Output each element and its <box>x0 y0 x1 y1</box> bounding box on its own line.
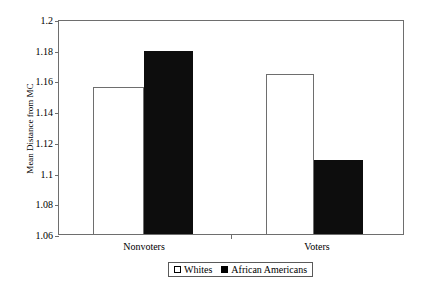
y-tick-mark <box>55 52 59 53</box>
y-tick-mark <box>55 144 59 145</box>
legend: Whites African Americans <box>168 262 313 277</box>
y-tick-label: 1.14 <box>19 108 53 118</box>
bar-voters-african-americans[interactable] <box>314 160 363 234</box>
x-axis-divider-tick <box>231 234 232 239</box>
x-axis-label-voters: Voters <box>230 241 404 253</box>
y-tick-mark <box>55 82 59 83</box>
y-tick-label: 1.08 <box>19 200 53 210</box>
y-tick-label: 1.12 <box>19 139 53 149</box>
y-tick-mark <box>55 21 59 22</box>
legend-swatch-white-square <box>174 266 181 273</box>
y-tick-label: 1.18 <box>19 47 53 57</box>
y-tick-mark <box>55 205 59 206</box>
legend-label-african-americans: African Americans <box>231 264 307 275</box>
y-tick-label: 1.1 <box>19 170 53 180</box>
legend-swatch-black-square <box>221 266 228 273</box>
y-tick-mark <box>55 236 59 237</box>
y-tick-label: 1.16 <box>19 77 53 87</box>
legend-item-african-americans[interactable]: African Americans <box>221 264 307 275</box>
plot-area: Mean Distance from MC 1.2 1.18 1.16 1.14… <box>58 20 404 235</box>
x-axis-label-nonvoters: Nonvoters <box>58 241 230 253</box>
bar-nonvoters-african-americans[interactable] <box>144 51 193 234</box>
bar-nonvoters-whites[interactable] <box>93 87 144 234</box>
y-tick-mark <box>55 175 59 176</box>
bar-chart: Mean Distance from MC 1.2 1.18 1.16 1.14… <box>0 0 425 295</box>
y-tick-mark <box>55 113 59 114</box>
bar-voters-whites[interactable] <box>266 74 314 234</box>
legend-item-whites[interactable]: Whites <box>174 264 212 275</box>
y-tick-label: 1.06 <box>19 231 53 241</box>
legend-label-whites: Whites <box>184 264 212 275</box>
y-tick-label: 1.2 <box>19 16 53 26</box>
